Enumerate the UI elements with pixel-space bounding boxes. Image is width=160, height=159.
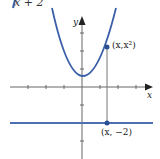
caption-text: x + 2 (14, 0, 43, 9)
graph-canvas (0, 0, 160, 159)
point-on-line (105, 121, 110, 126)
y-axis-arrow-icon (79, 16, 86, 25)
y-axis-label: y (73, 17, 78, 27)
parabola-curve (52, 8, 116, 76)
point-on-parabola (105, 45, 110, 50)
x-axis-label: x (147, 90, 152, 100)
label-point-line: (x, −2) (101, 127, 132, 137)
figure: x + 2 y x (x,x²) (x, −2) (0, 0, 160, 159)
label-point-parabola: (x,x²) (112, 40, 136, 50)
